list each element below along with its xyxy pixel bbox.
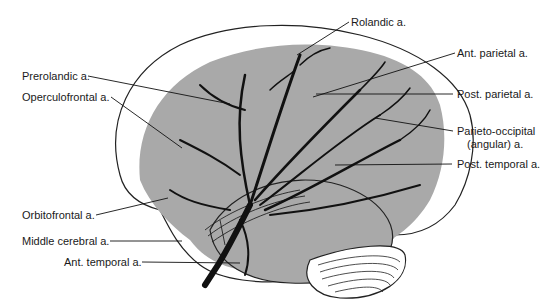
label-ant-temporal-a: Ant. temporal a.: [64, 256, 142, 268]
label-angular-a: (angular) a.: [467, 138, 523, 150]
label-prerolandic-a: Prerolandic a.: [22, 70, 90, 82]
label-ant-parietal-a: Ant. parietal a.: [457, 47, 528, 59]
label-orbitofrontal-a: Orbitofrontal a.: [22, 209, 95, 221]
label-post-temporal-a: Post. temporal a.: [457, 158, 540, 170]
label-operculofrontal-a: Operculofrontal a.: [22, 91, 109, 103]
label-rolandic-a: Rolandic a.: [351, 16, 406, 28]
label-parieto-occipital-a: Parieto-occipital: [457, 125, 535, 137]
label-post-parietal-a: Post. parietal a.: [457, 88, 533, 100]
label-middle-cerebral-a: Middle cerebral a.: [22, 235, 109, 247]
